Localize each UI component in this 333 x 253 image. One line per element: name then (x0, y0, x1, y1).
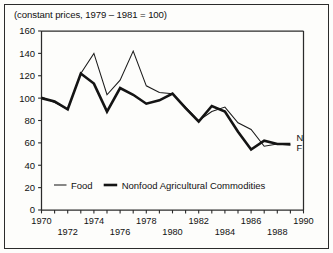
x-tick-label: 1982 (188, 216, 208, 226)
legend-label-nonfood: Nonfood Agricultural Commodities (122, 180, 266, 191)
xtick-labels-group: 1970197419781982198619901972197619801984… (31, 216, 313, 237)
line-chart-canvas: 020406080100120140160 197019741978198219… (0, 0, 333, 253)
chart-figure: (constant prices, 1979 – 1981 = 100) 020… (0, 0, 333, 253)
y-tick-label: 100 (19, 93, 35, 104)
y-tick-label: 40 (24, 160, 35, 171)
y-tick-label: 0 (30, 204, 35, 215)
series-line-food (42, 51, 291, 146)
x-tick-label: 1988 (267, 227, 287, 237)
y-tick-label: 160 (19, 25, 35, 36)
y-tick-label: 20 (24, 182, 35, 193)
end-label-food: F (296, 142, 302, 153)
y-tick-label: 140 (19, 48, 35, 59)
x-tick-label: 1970 (31, 216, 51, 226)
y-tick-label: 80 (24, 115, 35, 126)
x-tick-label: 1986 (241, 216, 261, 226)
x-tick-label: 1984 (215, 227, 235, 237)
series-line-nonfood (42, 74, 291, 150)
x-tick-label: 1978 (136, 216, 156, 226)
series-group (42, 51, 291, 149)
x-tick-label: 1980 (162, 227, 182, 237)
ytick-labels-group: 020406080100120140160 (19, 25, 35, 215)
end-labels-group: NF (296, 132, 303, 153)
y-tick-label: 120 (19, 70, 35, 81)
x-tick-label: 1990 (293, 216, 313, 226)
legend-group: FoodNonfood Agricultural Commodities (54, 180, 266, 191)
x-tick-label: 1976 (110, 227, 130, 237)
legend-label-food: Food (71, 180, 93, 191)
x-tick-label: 1974 (84, 216, 104, 226)
x-tick-label: 1972 (57, 227, 77, 237)
y-tick-label: 60 (24, 137, 35, 148)
